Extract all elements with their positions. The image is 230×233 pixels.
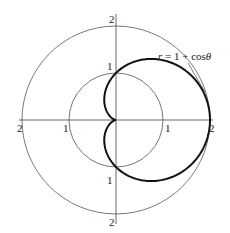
- label-bottom-2: 2: [109, 216, 115, 228]
- label-bottom-1: 1: [107, 174, 113, 186]
- label-leader-line: [188, 63, 205, 92]
- polar-cardioid-diagram: r = 1 + cosθ 2 1 1 2 2 1 1 2: [0, 0, 230, 233]
- label-top-1: 1: [107, 60, 113, 72]
- label-right-1: 1: [165, 122, 171, 134]
- label-left-2: 2: [17, 122, 23, 134]
- equation-label: r = 1 + cosθ: [158, 50, 212, 62]
- label-right-2: 2: [209, 122, 215, 134]
- label-top-2: 2: [109, 13, 115, 25]
- label-left-1: 1: [63, 122, 69, 134]
